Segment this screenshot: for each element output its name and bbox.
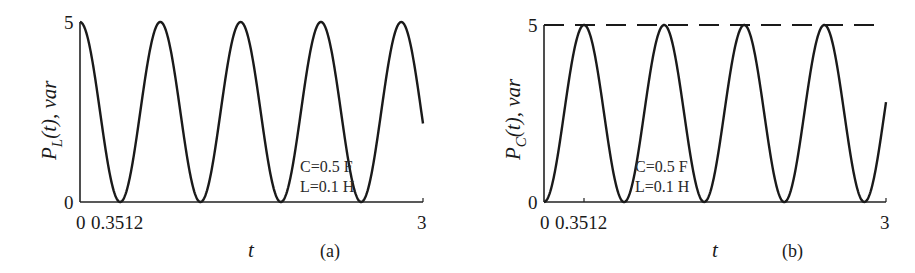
panel-a-curve	[80, 22, 423, 202]
panel-b-ytick-0: 0	[528, 192, 538, 213]
panel-b-caption: (b)	[782, 241, 803, 262]
panel-b-annotation-c: C=0.5 F	[635, 158, 688, 175]
panel-a: 5 0 0 0.3512 3 PL(t), var t (a) C=0.5 F …	[37, 12, 427, 262]
panel-a-annotation-c: C=0.5 F	[300, 158, 353, 175]
panel-b-annotation-l: L=0.1 H	[635, 178, 690, 195]
panel-a-xtick-3: 3	[417, 212, 427, 233]
figure: 5 0 0 0.3512 3 PL(t), var t (a) C=0.5 F …	[0, 0, 915, 273]
panel-a-caption: (a)	[320, 241, 340, 262]
panel-b-xlabel: t	[712, 238, 719, 262]
panel-a-xtick-0: 0	[76, 212, 86, 233]
panel-b-curve	[544, 25, 886, 202]
panel-a-xtick-0.3512: 0.3512	[91, 212, 143, 233]
panel-b-xtick-0: 0	[540, 212, 550, 233]
panel-a-ylabel: PL(t), var	[37, 80, 65, 161]
panel-a-ytick-0: 0	[64, 192, 74, 213]
panel-a-xlabel: t	[248, 238, 255, 262]
panel-b-xtick-0.3512: 0.3512	[555, 212, 607, 233]
panel-b-ylabel: PC(t), var	[501, 78, 529, 161]
panel-b: 5 0 0 0.3512 3 PC(t), var t (b) C=0.5 F …	[501, 15, 890, 262]
panel-a-annotation-l: L=0.1 H	[300, 178, 355, 195]
panel-a-ytick-5: 5	[64, 12, 74, 33]
panel-b-ytick-5: 5	[528, 15, 538, 36]
panel-b-xtick-3: 3	[880, 212, 890, 233]
